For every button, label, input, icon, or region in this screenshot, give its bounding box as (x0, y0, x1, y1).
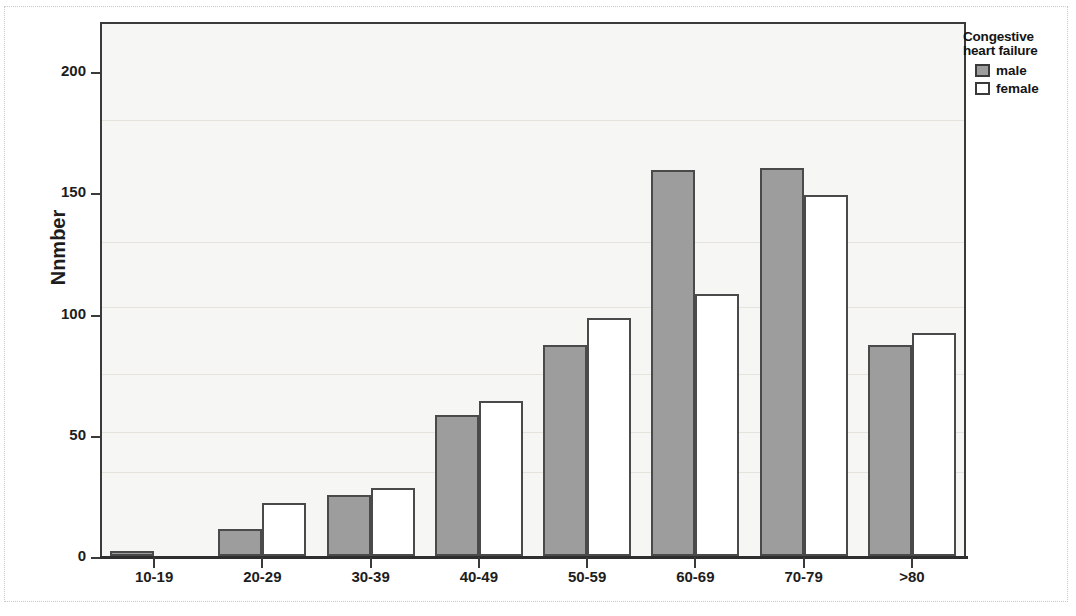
legend-label-male: male (996, 63, 1027, 78)
bar-group (868, 71, 956, 556)
x-tick-label-40-49: 40-49 (424, 568, 534, 585)
x-tick-mark (803, 557, 805, 568)
bar-male-60-69[interactable] (651, 170, 695, 556)
bar-group (218, 71, 306, 556)
bar-female-30-39[interactable] (371, 488, 415, 556)
y-tick-label: 0 (78, 547, 86, 564)
bar-group (327, 71, 415, 556)
y-tick-mark (91, 193, 100, 195)
bar-male-20-29[interactable] (218, 529, 262, 556)
bar-female-20-29[interactable] (262, 503, 306, 556)
bar-male-70-79[interactable] (760, 168, 804, 556)
legend-item-female[interactable]: female (975, 81, 1075, 96)
x-tick-label-30-39: 30-39 (316, 568, 426, 585)
bar-male-40-49[interactable] (435, 415, 479, 556)
legend-label-female: female (996, 81, 1039, 96)
bar-group (760, 71, 848, 556)
bar-male->80[interactable] (868, 345, 912, 556)
legend-title-line2: heart failure (963, 44, 1075, 58)
x-tick-label-70-79: 70-79 (749, 568, 859, 585)
bar-group (435, 71, 523, 556)
bar-female-50-59[interactable] (587, 318, 631, 556)
y-tick-mark (91, 436, 100, 438)
x-tick-label-50-59: 50-59 (532, 568, 642, 585)
legend: Congestive heart failure male female (963, 30, 1075, 99)
y-tick-mark (91, 315, 100, 317)
bar-female-40-49[interactable] (479, 401, 523, 556)
bar-group (543, 71, 631, 556)
y-tick-label: 50 (69, 426, 86, 443)
x-tick-mark (261, 557, 263, 568)
y-tick-label: 200 (61, 62, 86, 79)
legend-item-male[interactable]: male (975, 63, 1075, 78)
bar-female-60-69[interactable] (695, 294, 739, 556)
female-swatch-icon (975, 82, 990, 95)
legend-title: Congestive heart failure (963, 30, 1075, 58)
y-tick-label: 150 (61, 183, 86, 200)
bar-male-30-39[interactable] (327, 495, 371, 556)
x-tick-label-60-69: 60-69 (640, 568, 750, 585)
x-tick-label->80: >80 (857, 568, 967, 585)
x-tick-label-20-29: 20-29 (207, 568, 317, 585)
x-tick-mark (153, 557, 155, 568)
bar-group (651, 71, 739, 556)
bar-female-70-79[interactable] (804, 195, 848, 556)
bar-male-50-59[interactable] (543, 345, 587, 556)
x-tick-mark (694, 557, 696, 568)
bar-chart: Nnmber 050100150200 10-1920-2930-3940-49… (0, 0, 1076, 616)
plot-area (100, 22, 966, 558)
bar-group (110, 71, 198, 556)
bars-layer (100, 71, 966, 556)
x-tick-mark (478, 557, 480, 568)
y-tick-mark (91, 72, 100, 74)
x-axis-line (100, 556, 968, 559)
x-tick-mark (911, 557, 913, 568)
legend-title-line1: Congestive (963, 30, 1075, 44)
bar-female->80[interactable] (912, 333, 956, 556)
y-tick-mark (91, 557, 100, 559)
male-swatch-icon (975, 64, 990, 77)
x-tick-label-10-19: 10-19 (99, 568, 209, 585)
y-tick-label: 100 (61, 305, 86, 322)
x-tick-mark (370, 557, 372, 568)
x-tick-mark (586, 557, 588, 568)
